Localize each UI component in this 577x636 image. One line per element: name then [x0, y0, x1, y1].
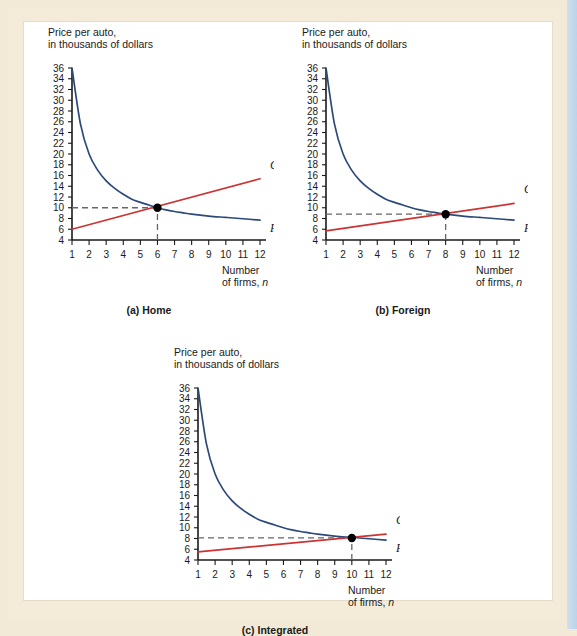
y-tick-label: 24 [53, 127, 65, 138]
x-tick-label: 11 [364, 569, 375, 580]
y-tick-label: 30 [179, 415, 191, 426]
curve-cc [72, 179, 260, 230]
chart-foreign-caption: (b) Foreign [278, 304, 528, 316]
x-tick-label: 10 [346, 569, 358, 580]
curve-pp [72, 68, 260, 220]
y-tick-label: 20 [53, 149, 65, 160]
chart-integrated-caption: (c) Integrated [150, 624, 400, 636]
y-axis-title-line2: in thousands of dollars [302, 38, 407, 50]
y-tick-label: 34 [307, 73, 319, 84]
equilibrium-point [153, 204, 161, 212]
y-tick-label: 26 [179, 436, 191, 447]
y-tick-label: 18 [179, 479, 191, 490]
x-tick-label: 7 [298, 569, 304, 580]
curve-pp [198, 388, 386, 540]
y-tick-label: 10 [53, 202, 65, 213]
x-tick-label: 1 [323, 249, 329, 260]
x-axis-title-line1: Number [476, 264, 514, 276]
x-tick-label: 2 [86, 249, 92, 260]
x-tick-label: 6 [155, 249, 161, 260]
x-axis-title-line2: of firms, n [476, 276, 522, 288]
x-tick-label: 12 [508, 249, 520, 260]
x-tick-label: 11 [492, 249, 503, 260]
x-axis-title-line2: of firms, n [348, 596, 394, 608]
y-tick-label: 22 [179, 458, 191, 469]
y-tick-label: 34 [53, 73, 65, 84]
x-axis-title-line2: of firms, n [222, 276, 268, 288]
y-tick-label: 36 [53, 63, 65, 74]
chart-foreign: Price per auto,in thousands of dollarsNu… [278, 22, 528, 302]
x-tick-label: 6 [409, 249, 415, 260]
chart-home-caption: (a) Home [24, 304, 274, 316]
x-tick-label: 2 [340, 249, 346, 260]
x-tick-label: 3 [103, 249, 109, 260]
y-tick-label: 22 [307, 138, 319, 149]
x-tick-label: 10 [220, 249, 232, 260]
chart-svg-foreign: Price per auto,in thousands of dollarsNu… [278, 22, 528, 302]
y-tick-label: 28 [307, 106, 319, 117]
y-axis-title-line2: in thousands of dollars [174, 358, 279, 370]
y-tick-label: 16 [53, 170, 65, 181]
x-tick-label: 1 [69, 249, 75, 260]
curve-label-pp: PP [269, 221, 274, 235]
y-tick-label: 24 [307, 127, 319, 138]
y-tick-label: 18 [307, 159, 319, 170]
figure-panel: Price per auto,in thousands of dollarsNu… [24, 22, 552, 600]
y-tick-label: 36 [179, 383, 191, 394]
y-tick-label: 34 [179, 393, 191, 404]
curve-label-cc: CC [270, 158, 274, 172]
x-tick-label: 3 [357, 249, 363, 260]
curve-cc [198, 534, 386, 552]
x-axis-title-line1: Number [348, 584, 386, 596]
y-axis-title-line2: in thousands of dollars [48, 38, 153, 50]
x-tick-label: 9 [460, 249, 466, 260]
y-tick-label: 30 [53, 95, 65, 106]
x-tick-label: 8 [315, 569, 321, 580]
y-tick-label: 16 [179, 490, 191, 501]
y-tick-label: 4 [58, 235, 64, 246]
x-tick-label: 5 [264, 569, 270, 580]
x-tick-label: 8 [189, 249, 195, 260]
y-tick-label: 32 [307, 84, 319, 95]
x-tick-label: 1 [195, 569, 201, 580]
x-tick-label: 6 [281, 569, 287, 580]
y-tick-label: 6 [58, 224, 64, 235]
y-tick-label: 4 [312, 235, 318, 246]
x-tick-label: 5 [138, 249, 144, 260]
y-tick-label: 24 [179, 447, 191, 458]
x-tick-label: 12 [380, 569, 392, 580]
y-axis-title-line1: Price per auto, [302, 26, 370, 38]
y-tick-label: 8 [184, 533, 190, 544]
y-tick-label: 18 [53, 159, 65, 170]
y-tick-label: 10 [179, 522, 191, 533]
x-tick-label: 11 [238, 249, 249, 260]
curve-label-pp: PP [523, 221, 528, 235]
chart-svg-integrated: Price per auto,in thousands of dollarsNu… [150, 342, 400, 622]
y-tick-label: 28 [53, 106, 65, 117]
curve-label-cc: CC [396, 513, 400, 527]
y-tick-label: 12 [179, 512, 191, 523]
x-tick-label: 8 [443, 249, 449, 260]
y-tick-label: 26 [307, 116, 319, 127]
y-tick-label: 20 [179, 469, 191, 480]
x-tick-label: 10 [474, 249, 486, 260]
y-axis-title-line1: Price per auto, [48, 26, 116, 38]
x-tick-label: 4 [120, 249, 126, 260]
x-tick-label: 12 [254, 249, 266, 260]
y-tick-label: 4 [184, 555, 190, 566]
equilibrium-point [348, 534, 356, 542]
curve-label-pp: PP [395, 541, 400, 555]
x-tick-label: 5 [392, 249, 398, 260]
x-axis-title-line1: Number [222, 264, 260, 276]
y-tick-label: 22 [53, 138, 65, 149]
y-tick-label: 14 [179, 501, 191, 512]
y-tick-label: 6 [312, 224, 318, 235]
x-tick-label: 3 [229, 569, 235, 580]
figure-outer-frame: Price per auto,in thousands of dollarsNu… [8, 8, 560, 621]
x-tick-label: 7 [172, 249, 178, 260]
curve-label-cc: CC [524, 182, 528, 196]
x-tick-label: 2 [212, 569, 218, 580]
y-tick-label: 16 [307, 170, 319, 181]
y-tick-label: 20 [307, 149, 319, 160]
curve-pp [326, 68, 514, 220]
